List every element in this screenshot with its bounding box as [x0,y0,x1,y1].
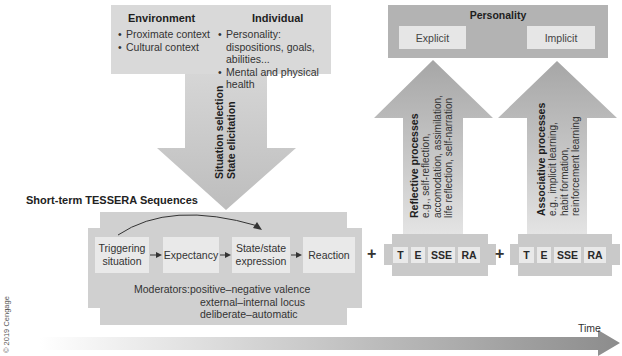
moderator-item: deliberate–automatic [190,308,310,321]
environment-item: Proximate context [118,28,210,41]
reflective-line: accomodation, assimilation, [432,95,444,218]
mini-e: E [411,247,425,263]
personality-title: Personality [388,9,608,21]
plus-sign: + [367,245,376,263]
individual-item: Personality: dispositions, goals, abilit… [218,28,330,66]
associative-title: Associative processes [535,103,547,216]
copyright-notice: © 2019 Cengage [2,296,11,353]
reflective-line: e.g., self-reflection, [420,95,432,218]
reflective-label: Reflective processes e.g., self-reflecti… [408,95,455,218]
time-label: Time [578,322,601,334]
moderators-label: Moderators: [134,283,190,296]
reflective-line: life reflection, self-narration [443,95,455,218]
explicit-box: Explicit [399,26,466,49]
mini-t: T [519,247,534,263]
associative-label: Associative processes e.g., implicit lea… [535,103,582,216]
environment-item: Cultural context [118,41,210,54]
step-expectancy: Expectancy [163,237,219,273]
mini-ra: RA [584,247,606,263]
mini-ra: RA [458,247,480,263]
individual-list: Personality: dispositions, goals, abilit… [218,28,330,91]
mini-sse: SSE [554,247,581,263]
mini-e: E [537,247,551,263]
state-elicitation-label: State elicitation [225,86,237,179]
mini-t: T [393,247,408,263]
moderator-item: external–internal locus [190,296,310,309]
time-arrow [40,330,620,356]
associative-line: e.g., implicit learning, [547,103,559,216]
reflective-title: Reflective processes [408,95,420,218]
tessera-title: Short-term TESSERA Sequences [26,194,198,206]
step-triggering-situation: Triggering situation [95,237,149,273]
implicit-box: Implicit [527,26,595,49]
associative-line: habit formation, [559,103,571,216]
moderators-list: positive–negative valence external–inter… [190,283,310,321]
moderator-item: positive–negative valence [190,283,310,296]
individual-title: Individual [252,12,303,24]
step-state-expression: State/state expression [232,237,290,273]
associative-line: reinforcement learning [570,103,582,216]
down-arrow-label: Situation selection State elicitation [213,86,237,179]
mini-sse: SSE [428,247,455,263]
step-reaction: Reaction [303,237,355,273]
environment-title: Environment [128,12,195,24]
plus-sign: + [495,245,504,263]
environment-list: Proximate context Cultural context [118,28,210,53]
situation-selection-label: Situation selection [213,86,225,179]
